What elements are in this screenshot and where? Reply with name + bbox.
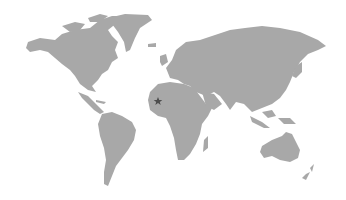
world-map xyxy=(0,0,346,200)
continents xyxy=(26,14,326,186)
southeast-asia-islands xyxy=(250,110,296,128)
new-zealand xyxy=(302,164,314,180)
british-isles xyxy=(160,54,168,66)
caribbean xyxy=(96,100,106,104)
australia xyxy=(260,132,300,162)
madagascar xyxy=(203,136,208,152)
iceland xyxy=(148,43,156,47)
south-america xyxy=(98,112,136,186)
